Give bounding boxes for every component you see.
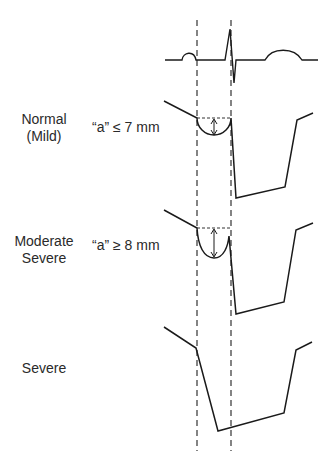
measurement-normal: “a” ≤ 7 mm xyxy=(92,119,160,136)
grade-label-severe: Severe xyxy=(14,360,74,377)
grade-label-moderate-line1: Moderate xyxy=(8,233,80,250)
grade-label-normal-line1: Normal xyxy=(14,111,74,128)
grade-label-normal: Normal (Mild) xyxy=(14,111,74,145)
waveform-moderate xyxy=(164,210,313,314)
waveform-normal xyxy=(164,101,313,198)
grade-label-normal-line2: (Mild) xyxy=(14,128,74,145)
waveform-diagram xyxy=(0,0,331,451)
ecg-trace xyxy=(165,29,318,83)
waveform-severe xyxy=(164,327,312,431)
grade-label-severe-line1: Severe xyxy=(14,360,74,377)
grade-label-moderate-line2: Severe xyxy=(8,250,80,267)
grade-label-moderate: Moderate Severe xyxy=(8,233,80,267)
measurement-moderate: “a” ≥ 8 mm xyxy=(92,237,160,254)
